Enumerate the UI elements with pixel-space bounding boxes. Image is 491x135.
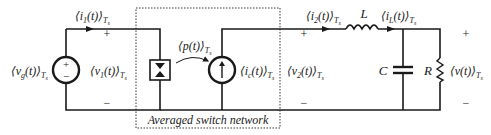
v2-minus-sign: − <box>301 96 308 110</box>
v2-plus-sign: + <box>301 27 308 41</box>
v-minus-sign: − <box>463 96 470 110</box>
p-label: ⟨p(t)⟩Ts <box>178 39 212 56</box>
inductor-label: L <box>359 6 367 21</box>
inductor-icon <box>346 25 378 29</box>
voltage-source-icon: + − <box>53 57 79 83</box>
svg-text:+: + <box>63 58 69 70</box>
v1-label: ⟨v1(t)⟩Ts <box>90 64 127 81</box>
v1-minus-sign: − <box>104 96 111 110</box>
v-plus-sign: + <box>463 27 470 41</box>
iL-label: ⟨iL(t)⟩Ts <box>381 9 417 26</box>
i1-arrow-icon <box>86 26 94 32</box>
power-sink-icon <box>150 60 170 80</box>
vg-label: ⟨vg(t)⟩Ts <box>11 64 48 81</box>
i1-label: ⟨i1(t)⟩Ts <box>75 9 110 26</box>
capacitor-icon <box>393 67 413 73</box>
v1-plus-sign: + <box>104 27 111 41</box>
resistor-label: R <box>423 63 432 78</box>
v-label: ⟨v(t)⟩Ts <box>450 64 483 81</box>
current-source-icon <box>209 57 235 83</box>
i2-arrow-icon <box>322 26 330 32</box>
svg-text:−: − <box>63 70 69 82</box>
resistor-icon <box>437 58 443 82</box>
capacitor-label: C <box>379 63 388 78</box>
power-transfer-arrow-icon <box>176 57 208 63</box>
v2-label: ⟨v2(t)⟩Ts <box>287 64 324 81</box>
i2-label: ⟨i2(t)⟩Ts <box>306 9 341 26</box>
circuit-diagram: + − ⟨vg(t)⟩Ts ⟨i1(t)⟩T <box>0 0 491 135</box>
switch-network-caption: Averaged switch network <box>147 113 269 127</box>
iL-arrow-icon <box>387 26 395 32</box>
ic-label: ⟨ic(t)⟩Ts <box>240 64 275 81</box>
